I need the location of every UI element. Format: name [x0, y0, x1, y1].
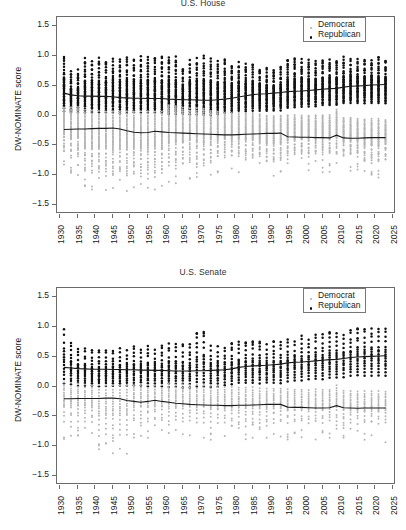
x-tick-mark [269, 214, 270, 218]
y-tick-label: 1.5 [16, 19, 49, 29]
y-tick-mark [52, 55, 56, 56]
x-tick-mark [147, 485, 148, 489]
x-tick-mark [94, 214, 95, 218]
x-tick-mark [357, 214, 358, 218]
x-tick-label: 1930 [56, 496, 66, 526]
x-tick-label: 1950 [126, 225, 136, 255]
y-tick-mark [52, 115, 56, 116]
x-tick-mark [252, 485, 253, 489]
y-tick-mark [52, 85, 56, 86]
panel-title-senate: U.S. Senate [0, 267, 406, 277]
x-tick-mark [164, 485, 165, 489]
x-tick-label: 1980 [231, 225, 241, 255]
x-tick-mark [234, 485, 235, 489]
y-tick-mark [52, 326, 56, 327]
x-tick-label: 2005 [319, 496, 329, 526]
x-tick-mark [199, 485, 200, 489]
x-tick-label: 1940 [91, 496, 101, 526]
chart-panel-house: U.S. House DW-NOMINATE score Democrat Re… [0, 0, 406, 265]
x-tick-mark [147, 214, 148, 218]
scatter-dots [63, 55, 387, 192]
x-tick-mark [217, 214, 218, 218]
x-tick-mark [322, 485, 323, 489]
x-tick-label: 1970 [196, 496, 206, 526]
y-tick-label: 0.0 [16, 380, 49, 390]
x-tick-mark [304, 485, 305, 489]
x-tick-mark [59, 214, 60, 218]
x-tick-label: 1950 [126, 496, 136, 526]
x-tick-mark [129, 485, 130, 489]
y-tick-mark [52, 445, 56, 446]
x-tick-mark [112, 214, 113, 218]
x-tick-label: 2020 [371, 496, 381, 526]
y-tick-label: −1.5 [16, 469, 49, 479]
x-tick-label: 1940 [91, 225, 101, 255]
x-tick-mark [304, 214, 305, 218]
x-tick-mark [164, 214, 165, 218]
x-tick-label: 1955 [144, 496, 154, 526]
x-tick-mark [392, 214, 393, 218]
y-tick-label: −1.5 [16, 198, 49, 208]
x-tick-label: 2010 [336, 225, 346, 255]
legend-label-democrat: Democrat [316, 290, 355, 300]
x-tick-mark [199, 214, 200, 218]
x-tick-label: 1965 [179, 496, 189, 526]
legend-entry-republican: Republican [306, 300, 361, 310]
legend-label-republican: Republican [316, 300, 361, 310]
x-tick-label: 2015 [354, 496, 364, 526]
legend-dot-democrat-icon [306, 290, 316, 300]
x-tick-mark [182, 214, 183, 218]
x-tick-label: 1975 [214, 496, 224, 526]
x-tick-label: 2025 [389, 496, 399, 526]
plot-area-house [56, 16, 395, 213]
y-tick-label: −1.0 [16, 439, 49, 449]
x-tick-label: 1945 [109, 496, 119, 526]
x-tick-mark [94, 485, 95, 489]
y-tick-mark [52, 296, 56, 297]
y-tick-mark [52, 475, 56, 476]
x-tick-mark [77, 485, 78, 489]
x-tick-label: 1935 [74, 496, 84, 526]
x-tick-mark [357, 485, 358, 489]
x-tick-mark [252, 214, 253, 218]
scatter-canvas-senate [57, 288, 395, 484]
x-tick-label: 1995 [284, 225, 294, 255]
x-tick-mark [322, 214, 323, 218]
x-tick-mark [269, 485, 270, 489]
x-tick-mark [77, 214, 78, 218]
y-tick-mark [52, 356, 56, 357]
legend-dot-republican-icon [306, 29, 316, 39]
y-tick-label: 0.5 [16, 79, 49, 89]
scatter-dots [63, 327, 387, 455]
x-tick-label: 1955 [144, 225, 154, 255]
legend-entry-democrat: Democrat [306, 290, 361, 300]
chart-panel-senate: U.S. Senate DW-NOMINATE score Democrat R… [0, 265, 406, 530]
y-tick-label: 1.5 [16, 290, 49, 300]
x-tick-label: 1960 [161, 225, 171, 255]
x-tick-mark [339, 214, 340, 218]
y-tick-mark [52, 415, 56, 416]
x-tick-label: 2010 [336, 496, 346, 526]
x-tick-label: 1990 [266, 496, 276, 526]
x-tick-label: 2000 [301, 225, 311, 255]
x-tick-mark [234, 214, 235, 218]
dw-nominate-figure: U.S. House DW-NOMINATE score Democrat Re… [0, 0, 406, 530]
x-tick-label: 1970 [196, 225, 206, 255]
x-tick-label: 2020 [371, 225, 381, 255]
legend-entry-republican: Republican [306, 29, 361, 39]
y-tick-label: 1.0 [16, 49, 49, 59]
panel-title-house: U.S. House [0, 0, 406, 8]
y-tick-label: −0.5 [16, 138, 49, 148]
x-tick-label: 1965 [179, 225, 189, 255]
x-tick-mark [392, 485, 393, 489]
x-tick-label: 2025 [389, 225, 399, 255]
y-tick-label: −1.0 [16, 168, 49, 178]
x-tick-label: 1995 [284, 496, 294, 526]
x-tick-mark [129, 214, 130, 218]
x-tick-label: 1990 [266, 225, 276, 255]
y-tick-label: 0.0 [16, 109, 49, 119]
x-tick-label: 1985 [249, 496, 259, 526]
y-tick-label: 1.0 [16, 320, 49, 330]
x-tick-mark [287, 214, 288, 218]
x-tick-label: 2000 [301, 496, 311, 526]
